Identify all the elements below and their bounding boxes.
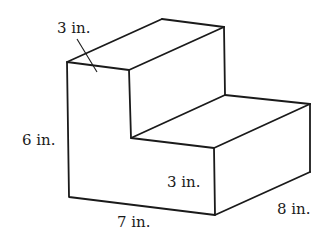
depth-label: 8 in. xyxy=(277,200,311,218)
step-inner-receding-edge xyxy=(131,95,225,138)
length-label: 7 in. xyxy=(117,213,151,231)
height-label: 6 in. xyxy=(22,131,56,149)
step-front-receding-edge xyxy=(214,104,310,148)
top-width-label: 3 in. xyxy=(57,19,91,37)
front-face-outline xyxy=(67,62,215,215)
step-height-label: 3 in. xyxy=(167,173,201,191)
step-back-edge xyxy=(225,95,310,104)
riser-back-vertical-edge xyxy=(224,27,225,95)
top-right-receding-edge xyxy=(129,27,224,70)
step-solid-diagram: 3 in. 6 in. 3 in. 7 in. 8 in. xyxy=(0,0,329,241)
top-back-edge xyxy=(162,19,224,27)
